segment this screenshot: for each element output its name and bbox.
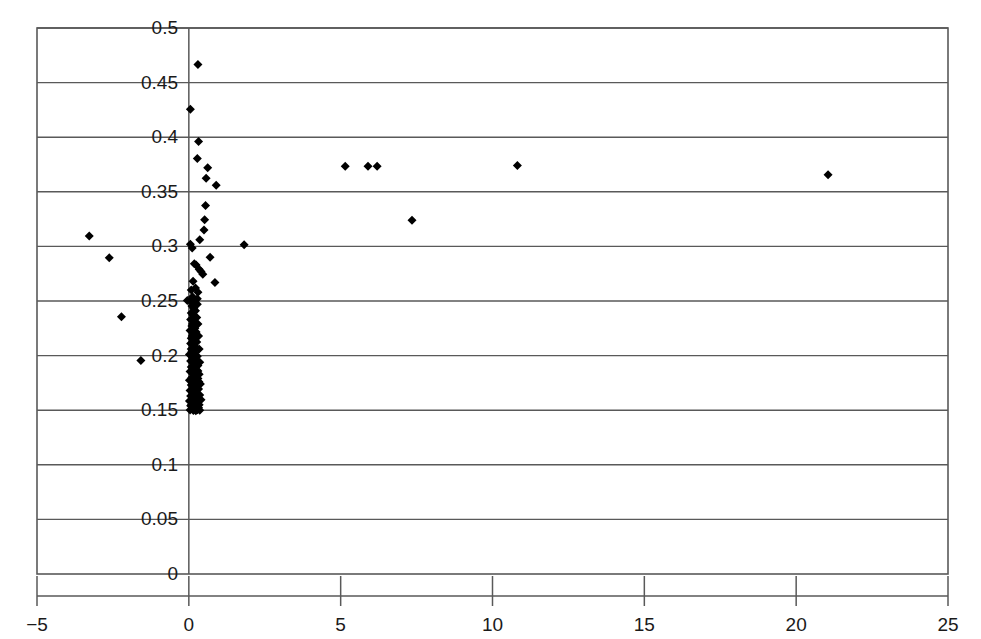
y-tick-label: 0.05 (141, 508, 178, 530)
scatter-chart: 00.050.10.150.20.250.30.350.40.450.5 −50… (0, 0, 981, 639)
data-point (105, 253, 114, 262)
y-tick-label: 0.5 (152, 17, 178, 39)
data-point (212, 181, 221, 190)
y-tick-label: 0.45 (141, 72, 178, 94)
y-tick-label: 0.2 (152, 345, 178, 367)
data-point (194, 137, 203, 146)
data-point (200, 226, 209, 235)
data-point (202, 174, 211, 183)
y-tick-label: 0.15 (141, 399, 178, 421)
y-tick-label: 0.25 (141, 290, 178, 312)
x-tick-label: 0 (184, 614, 195, 636)
x-tick-label: 15 (634, 614, 655, 636)
data-point (193, 154, 202, 163)
data-point (824, 170, 833, 179)
data-point (117, 312, 126, 321)
data-point (136, 356, 145, 365)
x-tick-label: 20 (786, 614, 807, 636)
y-tick-label: 0.3 (152, 235, 178, 257)
data-point (408, 216, 417, 225)
x-tick-label: −5 (26, 614, 48, 636)
data-point (186, 105, 195, 114)
data-point (200, 215, 209, 224)
data-point (201, 201, 210, 210)
data-point (193, 60, 202, 69)
data-point (195, 235, 204, 244)
data-point (373, 162, 382, 171)
y-tick-label: 0.4 (152, 126, 178, 148)
data-point (210, 278, 219, 287)
y-tick-label: 0 (167, 563, 178, 585)
data-point (363, 162, 372, 171)
plot-canvas (0, 0, 981, 639)
data-point (203, 163, 212, 172)
y-tick-label: 0.1 (152, 454, 178, 476)
y-tick-label: 0.35 (141, 181, 178, 203)
data-point (240, 240, 249, 249)
data-point (341, 162, 350, 171)
data-point (513, 161, 522, 170)
data-point-markers (85, 60, 833, 415)
gridlines-group (37, 28, 948, 519)
x-tick-label: 5 (335, 614, 346, 636)
data-point (85, 232, 94, 241)
data-point (206, 253, 215, 262)
x-tick-label: 25 (937, 614, 958, 636)
x-tick-label: 10 (482, 614, 503, 636)
